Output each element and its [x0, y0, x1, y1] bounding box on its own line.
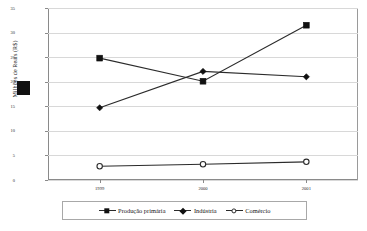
legend-label: Comércio [245, 207, 270, 214]
legend-marker-icon [174, 207, 191, 215]
x-axis-tick-mark [203, 180, 204, 183]
legend-item[interactable]: Comércio [226, 207, 271, 215]
legend-item[interactable]: Indústria [174, 207, 216, 215]
data-point-marker [303, 74, 309, 80]
y-axis-tick-label: 20 [0, 79, 15, 84]
legend-marker-icon [226, 207, 243, 215]
x-axis-tick-label: 1999 [80, 186, 120, 191]
legend-marker-icon [99, 207, 116, 215]
line-chart: Milhões de Reais (R$) 05101520253035 199… [0, 0, 367, 231]
data-point-marker [200, 68, 206, 74]
data-point-marker [304, 159, 309, 164]
x-axis-tick-mark [100, 180, 101, 183]
y-axis-tick-label: 15 [0, 104, 15, 109]
legend-label: Produção primária [118, 207, 165, 214]
x-axis-tick-label: 2000 [183, 186, 223, 191]
x-axis-tick-label: 2001 [286, 186, 326, 191]
series-layer [48, 8, 358, 180]
y-axis-tick-mark [45, 180, 48, 181]
y-axis-tick-label: 0 [0, 178, 15, 183]
series-line [100, 71, 307, 107]
y-axis-tick-label: 30 [0, 30, 15, 35]
data-point-marker [200, 78, 206, 84]
data-point-marker [303, 22, 309, 28]
y-axis-tick-label: 5 [0, 153, 15, 158]
y-axis-tick-label: 10 [0, 128, 15, 133]
legend-item[interactable]: Produção primária [99, 207, 166, 215]
y-axis-tick-label: 35 [0, 6, 15, 11]
data-point-marker [97, 55, 103, 61]
data-point-marker [200, 162, 205, 167]
data-point-marker [97, 164, 102, 169]
legend-label: Indústria [194, 207, 217, 214]
x-axis-tick-mark [306, 180, 307, 183]
y-axis-title: Milhões de Reais (R$) [8, 21, 22, 117]
y-axis-tick-label: 25 [0, 55, 15, 60]
chart-legend: Produção primáriaIndústriaComércio [62, 201, 307, 220]
data-point-marker [97, 105, 103, 111]
scan-smudge-artifact [17, 81, 30, 95]
